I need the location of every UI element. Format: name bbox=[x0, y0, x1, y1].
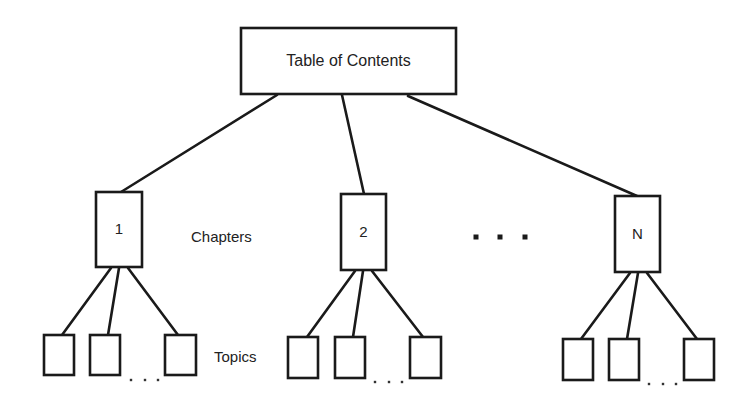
chapter-node-1: 1 bbox=[96, 192, 142, 267]
topic-ellipsis-dot bbox=[662, 383, 664, 385]
chapter-to-topic-edge bbox=[372, 271, 423, 337]
toc-hierarchy-diagram: Table of Contents 12N Chapters Topics bbox=[0, 0, 756, 403]
topic-ellipsis-dot bbox=[648, 383, 650, 385]
chapter-label: 1 bbox=[115, 220, 123, 237]
topic-box bbox=[335, 337, 365, 378]
chapter-to-topic-edge bbox=[108, 268, 119, 335]
topic-ellipsis-dot bbox=[675, 383, 677, 385]
chapter-label: N bbox=[632, 225, 643, 242]
chapter-node-2: 2 bbox=[341, 194, 386, 270]
topic-nodes bbox=[44, 335, 714, 380]
topic-box bbox=[90, 335, 120, 375]
topic-box bbox=[609, 339, 639, 380]
chapter-to-topic-edge bbox=[307, 271, 355, 337]
root-node-table-of-contents: Table of Contents bbox=[241, 28, 456, 94]
topic-ellipsis-dot bbox=[374, 381, 376, 383]
chapter-ellipsis-dot bbox=[523, 235, 528, 240]
chapter-to-topic-edge bbox=[62, 268, 111, 335]
topic-box bbox=[410, 337, 441, 378]
root-to-chapter-edge bbox=[121, 95, 277, 192]
chapter-to-topic-edge bbox=[581, 273, 630, 339]
chapter-ellipsis-dot bbox=[474, 235, 479, 240]
chapter-node-N: N bbox=[615, 196, 660, 272]
chapter-to-topic-edge bbox=[647, 273, 697, 339]
chapter-ellipsis-dot bbox=[498, 235, 503, 240]
chapter-nodes: 12N bbox=[96, 192, 660, 272]
chapter-to-topic-edge bbox=[128, 268, 178, 335]
topic-ellipsis-dot bbox=[144, 379, 146, 381]
topic-box bbox=[684, 339, 714, 380]
topic-ellipsis-dot bbox=[401, 381, 403, 383]
topic-box bbox=[288, 337, 318, 378]
topic-ellipsis-dot bbox=[388, 381, 390, 383]
root-label: Table of Contents bbox=[286, 52, 411, 69]
topic-box bbox=[563, 339, 593, 380]
chapter-to-topic-edge bbox=[627, 273, 638, 339]
topics-level-label: Topics bbox=[214, 348, 257, 365]
topic-ellipsis-dot bbox=[130, 379, 132, 381]
chapters-level-label: Chapters bbox=[191, 228, 252, 245]
chapter-to-topic-edge bbox=[353, 271, 363, 337]
chapter-label: 2 bbox=[359, 223, 367, 240]
topic-ellipsis-dot bbox=[157, 379, 159, 381]
topic-box bbox=[44, 335, 74, 375]
root-to-chapter-edge bbox=[342, 95, 364, 194]
root-to-chapter-edge bbox=[408, 96, 637, 196]
topic-box bbox=[165, 335, 196, 375]
